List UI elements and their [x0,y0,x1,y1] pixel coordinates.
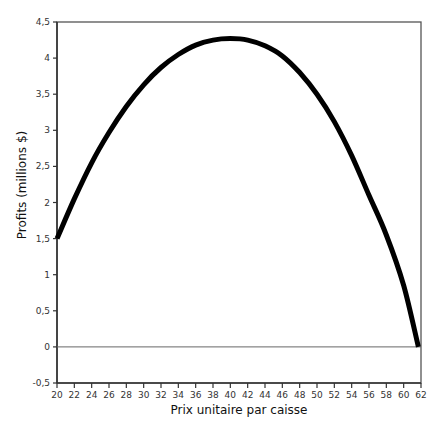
x-tick-label: 60 [398,390,410,400]
x-tick-label: 22 [69,390,80,400]
y-tick-label: 3 [44,125,50,135]
y-tick-label: -0,5 [32,378,50,388]
x-tick-label: 52 [329,390,340,400]
x-tick-label: 26 [103,390,115,400]
x-tick-label: 36 [190,390,202,400]
y-tick-label: 0,5 [36,306,50,316]
x-tick-label: 42 [242,390,253,400]
x-tick-label: 32 [155,390,166,400]
x-tick-label: 20 [51,390,63,400]
x-tick-label: 38 [207,390,219,400]
x-tick-label: 58 [381,390,393,400]
x-tick-label: 40 [225,390,237,400]
x-tick-label: 24 [86,390,98,400]
y-tick-label: 3,5 [36,89,50,99]
x-tick-label: 48 [294,390,306,400]
x-tick-label: 46 [277,390,289,400]
y-axis-title: Profits (millions $) [15,131,29,239]
x-tick-label: 44 [259,390,271,400]
x-tick-label: 28 [121,390,133,400]
x-tick-label: 34 [173,390,185,400]
profit-chart: -0,500,511,522,533,544,5 202224262830323… [0,0,438,433]
x-axis-title: Prix unitaire par caisse [171,403,308,417]
y-tick-label: 1 [44,270,50,280]
y-tick-label: 1,5 [36,234,50,244]
profit-curve [57,39,418,347]
x-tick-label: 62 [415,390,426,400]
x-tick-label: 50 [311,390,323,400]
y-tick-label: 0 [44,342,50,352]
plot-border [57,22,421,383]
y-tick-label: 2,5 [36,161,50,171]
x-tick-label: 30 [138,390,150,400]
x-tick-label: 54 [346,390,358,400]
y-tick-label: 4,5 [36,17,50,27]
y-tick-label: 2 [44,198,50,208]
x-tick-label: 56 [363,390,375,400]
x-axis-ticks: 2022242628303234363840424446485052545658… [51,383,426,400]
y-axis-ticks: -0,500,511,522,533,544,5 [32,17,57,388]
y-tick-label: 4 [44,53,50,63]
plot-frame [57,22,421,383]
